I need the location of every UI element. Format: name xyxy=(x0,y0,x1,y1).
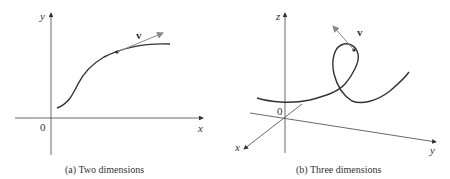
panel-a-vector-label: v xyxy=(136,30,142,41)
panel-b-x-axis xyxy=(244,104,302,149)
panel-b-z-axis-label: z xyxy=(276,11,280,22)
panel-a-origin-label: 0 xyxy=(40,122,46,133)
panel-b-y-axis xyxy=(250,113,436,142)
panel-a-caption: (a) Two dimensions xyxy=(65,164,144,175)
panel-a-y-axis-label: y xyxy=(40,11,45,22)
panel-a-curve xyxy=(57,44,170,108)
panel-a-x-axis-label: x xyxy=(198,123,203,134)
panel-b-origin-label: 0 xyxy=(277,106,283,117)
panel-b-vector-label: v xyxy=(357,27,363,38)
panel-b-y-axis-label: y xyxy=(430,145,435,156)
panel-a-diagram xyxy=(15,13,203,155)
panel-b-tangent-vector xyxy=(333,26,354,50)
panel-b-caption: (b) Three dimensions xyxy=(296,164,381,175)
panel-b-curve xyxy=(257,44,409,103)
panel-b-diagram xyxy=(244,13,436,153)
panel-b-x-axis-label: x xyxy=(235,142,240,153)
figure-canvas xyxy=(0,0,450,179)
